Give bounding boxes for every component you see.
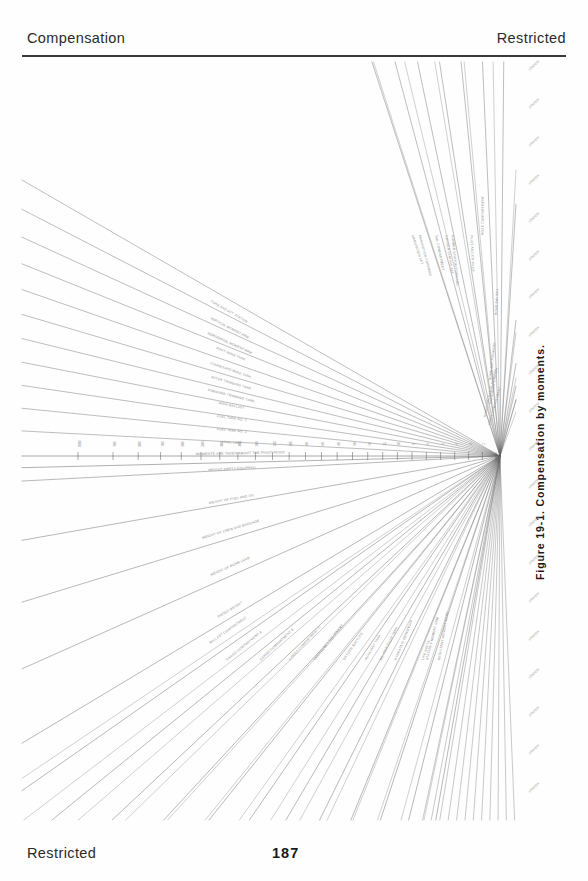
- ray-line: [473, 456, 500, 820]
- ray-line: [482, 456, 500, 820]
- ray-line: [320, 456, 500, 820]
- axis-tick-label: 2: [482, 443, 486, 445]
- axis-tick-label: 200: [255, 441, 259, 446]
- axis-tick-label: 400: [220, 441, 224, 446]
- axis-tick-label: 5: [441, 443, 445, 445]
- axis-tick-label: 100: [289, 441, 293, 446]
- page-title: Compensation: [27, 30, 125, 46]
- ray-line: [374, 62, 500, 456]
- ray-line: [378, 456, 500, 820]
- ray-line: [22, 209, 500, 456]
- ray-lines: [22, 62, 516, 820]
- ray-line: [22, 456, 500, 743]
- axis-tick-label: 3: [469, 443, 473, 445]
- axis-tick-label: 20: [368, 442, 372, 445]
- ray-line: [500, 320, 516, 456]
- ray-line: [500, 364, 516, 456]
- axis-tick-label: 500: [201, 441, 205, 446]
- ray-line: [22, 456, 500, 791]
- nomogram-svg: [0, 56, 588, 826]
- document-page: Compensation Restricted Figure 19-1. Com…: [0, 0, 588, 881]
- ray-line: [22, 456, 500, 602]
- axis-tick-label: 80: [305, 442, 309, 445]
- ray-label: NOSE COMPARTMENT: [481, 196, 485, 235]
- ray-line: [24, 456, 500, 820]
- axis-tick-label: 4: [455, 443, 459, 445]
- figure-caption: Figure 19-1. Compensation by moments.: [534, 390, 546, 580]
- axis-tick-label: 8: [412, 443, 416, 445]
- ray-line: [424, 456, 500, 820]
- axis-tick-label: 10: [397, 442, 401, 445]
- ray-line: [22, 456, 500, 468]
- ray-line: [401, 456, 500, 820]
- ray-line: [500, 456, 506, 820]
- axis-tick-label: 30: [353, 442, 357, 445]
- axis-tick-label: 40: [337, 442, 341, 445]
- ray-line: [22, 385, 500, 456]
- ray-line: [22, 180, 500, 456]
- axis-tick-label: 600: [181, 441, 185, 446]
- ray-line: [22, 408, 500, 456]
- ray-line: [22, 456, 500, 669]
- ray-line: [500, 456, 515, 820]
- ray-line: [22, 264, 500, 456]
- ray-line: [239, 456, 500, 820]
- axis-tick-label: 1: [496, 443, 500, 445]
- ray-line: [372, 62, 500, 456]
- ray-line: [500, 333, 516, 456]
- running-head: Compensation Restricted: [0, 30, 588, 54]
- axis-tick-label: 1000: [78, 441, 82, 448]
- classification-header: Restricted: [497, 30, 566, 46]
- axis-tick-label: 15: [383, 442, 387, 445]
- ray-line: [78, 456, 500, 820]
- axis-tick-label: 60: [321, 442, 325, 445]
- axis-tick-label: 300: [238, 441, 242, 446]
- axis-tick-label: 150: [273, 441, 277, 446]
- axis-tick-label: 900: [113, 441, 117, 446]
- ray-line: [351, 456, 500, 820]
- ray-line: [500, 399, 516, 456]
- ray-line: [22, 456, 500, 778]
- axis-tick-label: 700: [161, 441, 165, 446]
- ray-line: [22, 290, 500, 456]
- ray-line: [457, 456, 500, 820]
- axis-tick-label: 800: [138, 441, 142, 446]
- figure-nomogram: [0, 56, 588, 826]
- page-number: 187: [272, 845, 299, 861]
- ray-line: [22, 339, 500, 456]
- axis-tick-label: 6: [426, 443, 430, 445]
- classification-footer: Restricted: [27, 845, 96, 861]
